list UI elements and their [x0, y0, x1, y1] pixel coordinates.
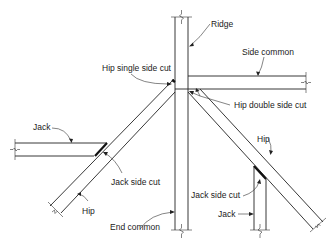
label-hip-right: Hip [257, 134, 270, 144]
label-hip-double-side-cut: Hip double side cut [234, 100, 307, 110]
right-hip-member [188, 89, 326, 232]
left-hip-member [48, 79, 175, 217]
ridge-member [171, 10, 192, 238]
label-jack-side-cut-right: Jack side cut [191, 190, 241, 200]
label-jack-left: Jack [33, 122, 51, 132]
label-end-common: End common [110, 222, 160, 232]
right-jack-member [250, 166, 270, 238]
left-jack-member [10, 139, 107, 160]
label-hip-single-side-cut: Hip single side cut [102, 63, 172, 73]
roof-framing-diagram: Ridge Side common Hip single side cut Hi… [0, 0, 334, 240]
label-jack-side-cut-left: Jack side cut [111, 177, 161, 187]
side-common-member [175, 72, 311, 93]
label-jack-right: Jack [218, 209, 236, 219]
label-ridge: Ridge [211, 19, 233, 29]
label-hip-left: Hip [82, 206, 95, 216]
label-side-common: Side common [242, 47, 294, 57]
